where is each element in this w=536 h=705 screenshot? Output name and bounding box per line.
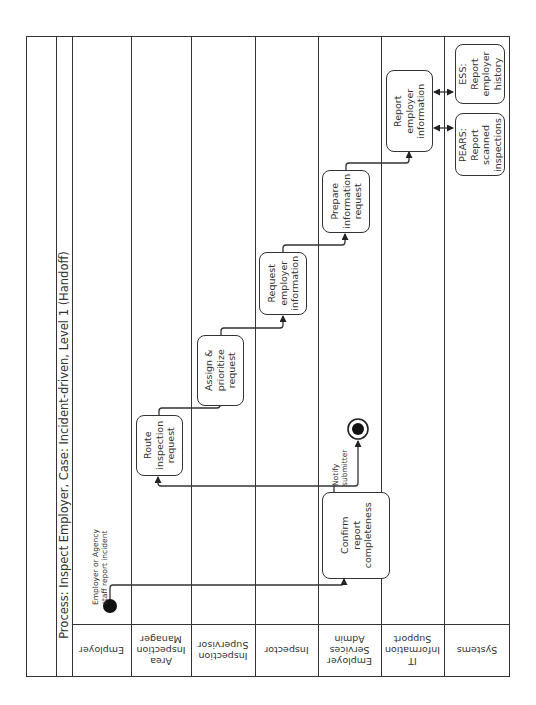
task-report-employer-information[interactable]: Report employer information [386,70,433,152]
lane-label-it-information-support: IT Information Support [381,625,444,677]
lane-label-employer: Employer [72,625,131,677]
task-route-inspection-request[interactable]: Route inspection request [136,415,183,476]
task-ess-report-employer-history[interactable]: ESS: Report employer history [455,44,505,104]
task-prepare-information-request[interactable]: Prepare information request [322,170,370,233]
lane-divider [381,36,382,677]
task-label: PEARS: Report scanned inspections [457,118,503,172]
task-label: Prepare information request [329,174,364,229]
process-title: Process: Inspect Employer, Case: Inciden… [57,145,73,705]
task-assign-prioritize-request[interactable]: Assign & prioritize request [197,335,244,406]
lane-label-systems: Systems [444,625,510,677]
lane-divider [444,36,445,677]
lane-divider [131,36,132,677]
task-label: Request employer information [266,256,301,311]
lane-divider [255,36,256,677]
end-event-icon [348,419,368,439]
lane-label-employer-services-admin: Employer Services Admin [318,625,381,677]
lane-label-area-inspection-manager: Area Inspection Manager [131,625,191,677]
lane-divider [191,36,192,677]
notify-submitter-label: Notify submitter [331,442,353,486]
task-pears-report-scanned-inspections[interactable]: PEARS: Report scanned inspections [455,113,505,176]
lane-label-inspection-supervisor: Inspection Supervisor [191,625,255,677]
start-event [103,599,117,613]
task-request-employer-information[interactable]: Request employer information [259,252,307,315]
task-label: Report employer information [392,84,427,139]
start-event-label: Employer or Agency staff report incident [91,525,121,605]
task-label: Route inspection request [142,421,177,470]
task-confirm-report-completeness[interactable]: Confirm report completeness [322,492,390,579]
task-label: Assign & prioritize request [203,348,238,393]
task-label: Confirm report completeness [339,502,374,568]
lane-divider [318,36,319,677]
lane-label-inspector: Inspector [255,625,318,677]
task-label: ESS: Report employer history [457,50,503,98]
